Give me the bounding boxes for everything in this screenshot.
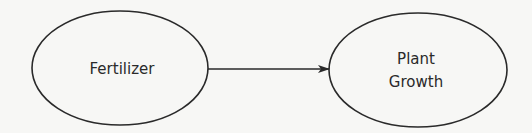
plant-growth-label-line1: Plant <box>397 50 435 68</box>
fertilizer-label: Fertilizer <box>90 60 156 78</box>
node-fertilizer: Fertilizer <box>32 11 208 125</box>
plant-growth-label-line2: Growth <box>389 73 443 91</box>
diagram-canvas: Fertilizer Plant Growth <box>0 0 532 133</box>
diagram-svg: Fertilizer Plant Growth <box>0 0 532 133</box>
node-plant-growth: Plant Growth <box>329 13 507 127</box>
plant-growth-ellipse <box>329 13 507 127</box>
